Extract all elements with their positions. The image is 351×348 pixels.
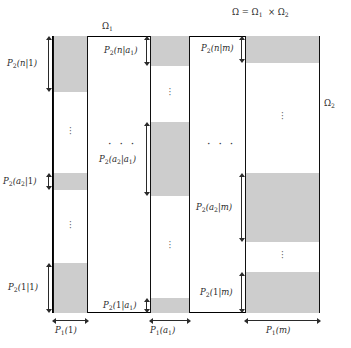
measure-col2-1 <box>143 298 150 313</box>
label-col1-band-n: P2(n|1) <box>7 59 37 69</box>
omega-product-label: Ω = Ω1 × Ω2 <box>232 7 289 18</box>
column-1: ······ <box>53 36 88 313</box>
label-width-col1: P1(1) <box>55 326 77 336</box>
band-n-a1 <box>151 36 189 66</box>
gap-1b: ··· <box>54 221 87 231</box>
column-2: ······ <box>150 36 190 313</box>
label-col2-band-a2: P2(a2|a1) <box>99 155 136 165</box>
label-col1-band-1: P2(1|1) <box>8 283 38 293</box>
omega1-label: Ω1 <box>102 21 113 32</box>
measure-col3-n <box>238 36 245 63</box>
gap-2b: ··· <box>151 241 189 251</box>
measure-width-col2 <box>149 317 191 324</box>
column-3: ······ <box>245 36 320 313</box>
gap-2a: ··· <box>151 88 189 98</box>
label-width-col2: P1(a1) <box>150 326 175 336</box>
band-1-1 <box>54 263 87 313</box>
product-space-diagram: Ω = Ω1 × Ω2 Ω1 Ω2 ······ ······ ······ ·… <box>0 0 351 348</box>
band-a2-m <box>246 173 319 242</box>
band-a2-a1 <box>151 122 189 196</box>
gap-3b: ··· <box>246 251 319 261</box>
band-a2-1 <box>54 173 87 190</box>
measure-col1-1 <box>45 263 52 313</box>
gap-1a: ··· <box>54 127 87 137</box>
label-col1-band-a2: P2(a2|1) <box>3 177 37 187</box>
measure-col3-a2 <box>238 173 245 242</box>
band-n-1 <box>54 36 87 92</box>
label-col2-band-1: P2(1|a1) <box>103 301 137 311</box>
label-col3-band-1: P2(1|m) <box>200 288 233 298</box>
measure-width-col3 <box>244 317 321 324</box>
omega2-label: Ω2 <box>324 98 335 109</box>
band-1-m <box>246 272 319 313</box>
measure-col2-a2 <box>143 122 150 196</box>
label-col3-band-a2: P2(a2|m) <box>196 203 232 213</box>
band-1-a1 <box>151 298 189 313</box>
gap-3a: ··· <box>246 112 319 122</box>
measure-col1-n <box>45 36 52 92</box>
measure-col1-a2 <box>45 173 52 190</box>
band-n-m <box>246 36 319 63</box>
label-col2-band-n: P2(n|a1) <box>104 46 138 56</box>
hdots-between-col2-col3: · · · <box>207 139 235 150</box>
measure-col3-1 <box>238 272 245 313</box>
label-col3-band-n: P2(n|m) <box>201 44 234 54</box>
hdots-between-col1-col2: · · · <box>108 139 136 150</box>
measure-col2-n <box>143 36 150 66</box>
label-width-col3: P1(m) <box>266 326 290 336</box>
measure-width-col1 <box>52 317 89 324</box>
